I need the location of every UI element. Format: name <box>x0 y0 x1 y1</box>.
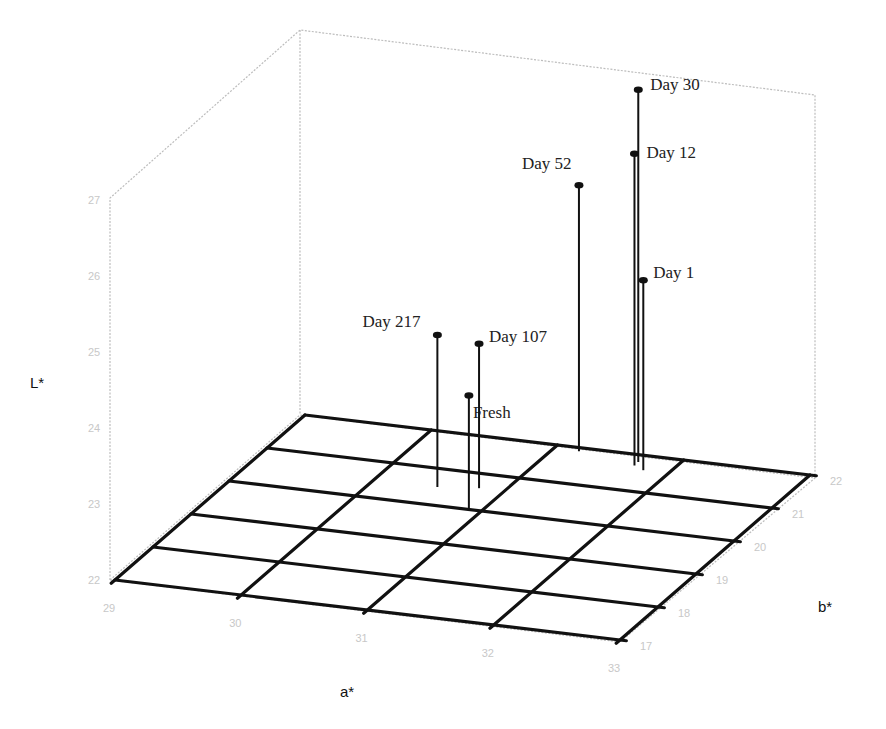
point-label: Day 30 <box>650 75 700 94</box>
point-label: Day 1 <box>653 263 694 282</box>
y-tick-label: 21 <box>792 508 804 520</box>
y-tick-label: 17 <box>640 640 652 652</box>
z-tick-label: 25 <box>88 346 100 358</box>
point-marker[interactable] <box>464 392 473 398</box>
z-tick-label: 23 <box>88 498 100 510</box>
x-tick-label: 32 <box>482 647 494 659</box>
grid-line-a <box>111 415 305 583</box>
point-label: Day 217 <box>362 312 421 331</box>
x-tick-label: 33 <box>608 662 620 674</box>
z-tick-label: 22 <box>88 574 100 586</box>
3d-scatter-chart: FreshDay 1Day 12Day 30Day 52Day 107Day 2… <box>0 0 886 729</box>
point-marker[interactable] <box>634 87 643 93</box>
grid-line-b <box>115 580 626 641</box>
y-tick-label: 19 <box>716 574 728 586</box>
point-label: Day 12 <box>646 143 696 162</box>
y-tick-label: 22 <box>830 475 842 487</box>
y-tick-label: 20 <box>754 541 766 553</box>
floor-grid <box>111 415 816 643</box>
x-tick-label: 31 <box>356 632 368 644</box>
point-label: Day 107 <box>489 327 548 346</box>
x-tick-label: 30 <box>229 617 241 629</box>
point-marker[interactable] <box>639 277 648 283</box>
z-tick-label: 24 <box>88 422 100 434</box>
point-marker[interactable] <box>433 332 442 338</box>
y-axis-title: b* <box>818 598 832 615</box>
point-marker[interactable] <box>574 182 583 188</box>
point-marker[interactable] <box>475 341 484 347</box>
grid-line-b <box>267 448 778 509</box>
x-tick-label: 29 <box>103 602 115 614</box>
x-axis-title: a* <box>340 683 354 700</box>
grid-line-b <box>229 481 740 542</box>
z-tick-label: 27 <box>88 194 100 206</box>
grid-line-b <box>191 514 702 575</box>
grid-line-b <box>305 415 816 476</box>
z-tick-label: 26 <box>88 270 100 282</box>
z-axis-title: L* <box>30 374 44 391</box>
bounding-box <box>110 30 815 642</box>
y-tick-label: 18 <box>678 607 690 619</box>
grid-line-b <box>153 547 664 608</box>
point-label: Day 52 <box>522 154 572 173</box>
